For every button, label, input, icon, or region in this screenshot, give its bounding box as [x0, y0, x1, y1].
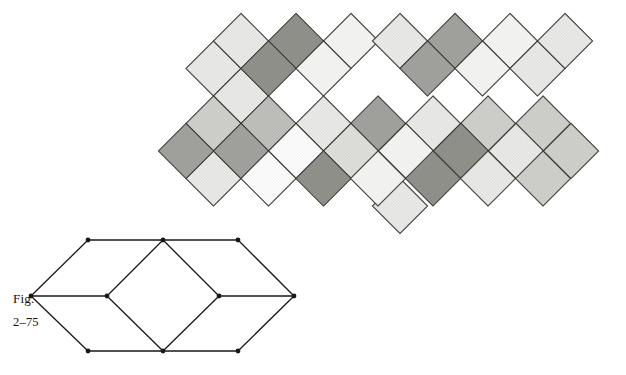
line-drawing-edge: [163, 296, 219, 351]
tessellation-and-line-drawing: [0, 0, 626, 375]
line-drawing-group: [29, 238, 297, 354]
line-drawing-vertex-dot: [161, 349, 166, 354]
line-drawing-vertex-dot: [236, 349, 241, 354]
line-drawing-vertex-dot: [292, 294, 297, 299]
figure-label-number: 2–75: [13, 315, 39, 330]
figure-label-word: Fig.: [13, 291, 34, 307]
line-drawing-edge: [31, 240, 88, 296]
line-drawing-vertex-dot: [236, 238, 241, 243]
line-drawing-edge: [238, 296, 294, 351]
line-drawing-vertex-dot: [86, 349, 91, 354]
line-drawing-vertex-dot: [105, 294, 110, 299]
line-drawing-edge: [107, 240, 163, 296]
line-drawing-vertex-dot: [217, 294, 222, 299]
line-drawing-edge: [31, 296, 88, 351]
line-drawing-vertex-dot: [161, 238, 166, 243]
line-drawing-edge: [107, 296, 163, 351]
figure-canvas: Fig. 2–75: [0, 0, 626, 375]
line-drawing-edge: [163, 240, 219, 296]
line-drawing-vertex-dot: [86, 238, 91, 243]
line-drawing-edge: [238, 240, 294, 296]
tessellation-group: [159, 14, 599, 234]
